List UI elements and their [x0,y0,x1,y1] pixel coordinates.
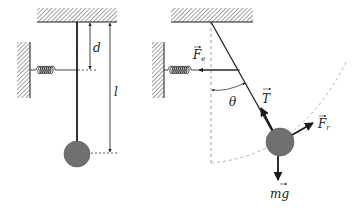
spring-left [30,66,77,74]
label-theta: θ [229,95,237,109]
label-spring-force: Fe [192,48,205,63]
ceiling-support-right [171,8,253,22]
tension-arrow [261,108,273,131]
pendulum-bob-right [266,128,294,156]
label-d: d [93,41,101,55]
pendulum-rod-right [211,22,272,131]
label-restoring-force: Fr [317,117,330,132]
left-figure: d l [17,8,118,167]
right-figure: Fe T θ Fr mg [152,8,346,201]
pendulum-spring-diagram: d l Fe T [0,0,363,208]
label-weight: mg [270,187,289,201]
label-tension: T [262,92,271,106]
wall-support-right [152,42,164,98]
pendulum-bob-left [64,141,90,167]
wall-support-left [17,42,30,98]
angle-arc [212,83,245,90]
ceiling-support-left [37,8,117,22]
label-l: l [114,85,118,99]
